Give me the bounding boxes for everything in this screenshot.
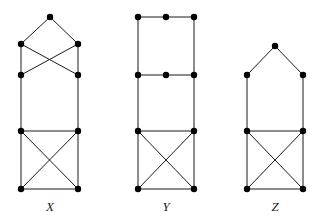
graph-vertex (244, 72, 250, 78)
vertices-layer (18, 14, 306, 192)
graph-vertex (272, 43, 278, 49)
graph-y-vertices (135, 14, 197, 192)
labels-layer: XYZ (45, 199, 279, 214)
graph-vertex (244, 128, 250, 134)
graph-edge (275, 46, 303, 75)
graph-vertex (163, 72, 169, 78)
graph-x-edges (21, 17, 78, 189)
graph-vertex (135, 128, 141, 134)
graph-vertex (300, 72, 306, 78)
graph-vertex (135, 186, 141, 192)
graph-edge (247, 46, 275, 75)
graph-edge (21, 17, 50, 44)
graph-vertex (191, 186, 197, 192)
graph-vertex (75, 128, 81, 134)
graph-vertex (18, 186, 24, 192)
graph-vertex (18, 128, 24, 134)
graph-y-edges (138, 17, 194, 189)
graph-edge (50, 17, 78, 44)
graph-vertex (47, 14, 53, 20)
graph-vertex (300, 128, 306, 134)
figure-container: XYZ (0, 0, 322, 223)
graph-z-vertices (244, 43, 306, 192)
graph-vertex (135, 14, 141, 20)
graph-figure-canvas: XYZ (0, 0, 322, 223)
graph-vertex (75, 186, 81, 192)
graph-label-z: Z (271, 199, 279, 214)
graph-label-y: Y (162, 199, 171, 214)
graph-vertex (191, 128, 197, 134)
graph-vertex (300, 186, 306, 192)
graph-vertex (18, 72, 24, 78)
graph-x-vertices (18, 14, 81, 192)
graph-vertex (18, 41, 24, 47)
graph-vertex (191, 72, 197, 78)
graph-vertex (191, 14, 197, 20)
graph-z-edges (247, 46, 303, 189)
graph-vertex (75, 41, 81, 47)
edges-layer (21, 17, 303, 189)
graph-vertex (163, 14, 169, 20)
graph-vertex (244, 186, 250, 192)
graph-vertex (135, 72, 141, 78)
graph-vertex (75, 72, 81, 78)
graph-label-x: X (45, 199, 55, 214)
